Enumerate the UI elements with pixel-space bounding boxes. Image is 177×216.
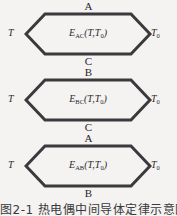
conductor-label-top-2: B bbox=[0, 67, 177, 78]
emf-args-close-2: ) bbox=[103, 93, 106, 104]
thermocouple-cell-bc: B EBC(T,T0) T T0 C bbox=[0, 66, 177, 134]
temperature-subscript-right-2: 0 bbox=[157, 98, 160, 105]
emf-args-2: (T,T bbox=[84, 93, 100, 104]
conductor-label-bottom-3: B bbox=[0, 188, 177, 199]
temperature-subscript-right-3: 0 bbox=[157, 164, 160, 171]
emf-args-1: (T,T bbox=[84, 27, 100, 38]
thermocouple-figure: A EAC(T,T0) T T0 C B EBC(T,T0) T T0 bbox=[0, 0, 177, 216]
emf-formula-3: EAB(T,T0) bbox=[24, 159, 152, 173]
temperature-label-left-3: T bbox=[8, 159, 24, 170]
conductor-label-top-3: A bbox=[0, 133, 177, 144]
emf-subscript-2: BC bbox=[75, 98, 84, 105]
conductor-label-top-1: A bbox=[0, 1, 177, 12]
temperature-label-left-1: T bbox=[8, 27, 24, 38]
emf-args-close-1: ) bbox=[104, 27, 107, 38]
emf-args-close-3: ) bbox=[104, 159, 107, 170]
temperature-label-left-2: T bbox=[8, 93, 24, 104]
thermocouple-cell-ab: A EAB(T,T0) T T0 B bbox=[0, 132, 177, 200]
temperature-label-right-1: T0 bbox=[151, 27, 173, 41]
emf-formula-2: EBC(T,T0) bbox=[24, 93, 152, 107]
emf-subscript-1: AC bbox=[75, 32, 84, 39]
figure-caption: 图2-1 热电偶中间导体定律示意图 bbox=[0, 203, 177, 216]
thermocouple-cell-ac: A EAC(T,T0) T T0 C bbox=[0, 0, 177, 68]
emf-subscript-3: AB bbox=[75, 164, 84, 171]
temperature-label-right-2: T0 bbox=[151, 93, 173, 107]
temperature-subscript-right-1: 0 bbox=[157, 32, 160, 39]
emf-formula-1: EAC(T,T0) bbox=[24, 27, 152, 41]
temperature-label-right-3: T0 bbox=[151, 159, 173, 173]
emf-args-3: (T,T bbox=[84, 159, 100, 170]
